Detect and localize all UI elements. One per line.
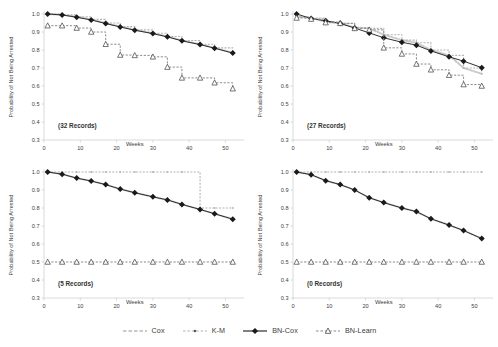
legend-key-cox-icon [122,322,148,340]
panel-top-right: 1.00.90.80.70.60.50.40.301020304050Weeks… [249,0,498,158]
svg-text:50: 50 [471,303,477,309]
svg-text:20: 20 [362,145,368,151]
svg-text:50: 50 [222,145,228,151]
svg-text:0.9: 0.9 [32,29,40,35]
svg-text:0.5: 0.5 [32,101,40,107]
legend-label-bnlearn: BN-Learn [345,326,377,335]
svg-text:10: 10 [326,145,332,151]
legend-key-bnlearn-icon [315,322,341,340]
panel-plot-top-right: 1.00.90.80.70.60.50.40.301020304050Weeks… [249,0,498,158]
svg-text:0.4: 0.4 [281,119,289,125]
svg-text:20: 20 [113,145,119,151]
svg-text:0.9: 0.9 [281,187,289,193]
legend-label-bncox: BN-Cox [272,326,298,335]
svg-text:50: 50 [222,303,228,309]
panel-plot-top-left: 1.00.90.80.70.60.50.40.301020304050Weeks… [0,0,249,158]
svg-text:10: 10 [326,303,332,309]
svg-text:40: 40 [435,145,441,151]
svg-text:1.0: 1.0 [281,169,289,175]
svg-text:40: 40 [435,303,441,309]
legend-item-bnlearn: BN-Learn [315,322,377,340]
svg-text:0.6: 0.6 [281,241,289,247]
svg-text:0.7: 0.7 [32,223,40,229]
svg-text:30: 30 [399,145,405,151]
svg-text:0.6: 0.6 [32,241,40,247]
svg-text:1.0: 1.0 [281,11,289,17]
svg-text:0.6: 0.6 [281,83,289,89]
svg-text:Probability of Not Being Arres: Probability of Not Being Arrested [257,195,263,276]
svg-text:30: 30 [399,303,405,309]
panel-plot-bottom-left: 1.00.90.80.70.60.50.40.301020304050Weeks… [0,158,249,316]
svg-text:0.8: 0.8 [281,205,289,211]
legend-label-cox: Cox [152,326,165,335]
legend-label-km: K-M [212,326,225,335]
svg-text:0.5: 0.5 [32,259,40,265]
svg-text:0.3: 0.3 [281,137,289,143]
svg-text:10: 10 [77,145,83,151]
svg-text:0.8: 0.8 [32,205,40,211]
survival-curves-figure: 1.00.90.80.70.60.50.40.301020304050Weeks… [0,0,498,347]
panel-bottom-left: 1.00.90.80.70.60.50.40.301020304050Weeks… [0,158,249,316]
svg-text:40: 40 [186,303,192,309]
legend-key-bncox-icon [242,322,268,340]
svg-text:20: 20 [113,303,119,309]
svg-text:Probability of Not Being Arres: Probability of Not Being Arrested [8,195,14,276]
svg-text:Probability of Not Being Arres: Probability of Not Being Arrested [8,37,14,118]
svg-text:0.6: 0.6 [32,83,40,89]
svg-text:Weeks: Weeks [126,299,144,305]
svg-text:0: 0 [291,145,294,151]
panel-bottom-right: 1.00.90.80.70.60.50.40.301020304050Weeks… [249,158,498,316]
svg-text:0.9: 0.9 [281,29,289,35]
svg-text:0.4: 0.4 [32,119,40,125]
svg-text:Weeks: Weeks [126,141,144,147]
svg-text:Weeks: Weeks [375,299,393,305]
svg-text:0.7: 0.7 [281,223,289,229]
panel-plot-bottom-right: 1.00.90.80.70.60.50.40.301020304050Weeks… [249,158,498,316]
svg-text:Weeks: Weeks [375,141,393,147]
svg-text:0.3: 0.3 [32,137,40,143]
svg-text:Probability of Not Being Arres: Probability of Not Being Arrested [257,37,263,118]
legend-item-km: K-M [182,322,225,340]
svg-text:10: 10 [77,303,83,309]
svg-text:0: 0 [291,303,294,309]
svg-text:0.5: 0.5 [281,259,289,265]
svg-text:1.0: 1.0 [32,11,40,17]
svg-text:0.5: 0.5 [281,101,289,107]
svg-text:0.8: 0.8 [32,47,40,53]
svg-text:0.3: 0.3 [32,295,40,301]
legend-item-cox: Cox [122,322,165,340]
svg-text:0.8: 0.8 [281,47,289,53]
svg-text:40: 40 [186,145,192,151]
svg-text:(5 Records): (5 Records) [58,280,93,288]
svg-text:0: 0 [42,145,45,151]
svg-text:(27 Records): (27 Records) [307,122,346,130]
svg-text:1.0: 1.0 [32,169,40,175]
svg-text:20: 20 [362,303,368,309]
svg-text:30: 30 [150,145,156,151]
svg-text:50: 50 [471,145,477,151]
svg-text:30: 30 [150,303,156,309]
svg-text:0.4: 0.4 [32,277,40,283]
svg-text:0.3: 0.3 [281,295,289,301]
legend-item-bncox: BN-Cox [242,322,298,340]
svg-text:0.7: 0.7 [32,65,40,71]
svg-text:(32 Records): (32 Records) [58,122,97,130]
legend: Cox K-M BN-Cox BN-Learn [0,314,498,347]
svg-text:(0 Records): (0 Records) [307,280,342,288]
svg-text:0.4: 0.4 [281,277,289,283]
panel-top-left: 1.00.90.80.70.60.50.40.301020304050Weeks… [0,0,249,158]
svg-text:0.9: 0.9 [32,187,40,193]
legend-key-km-icon [182,322,208,340]
svg-text:0: 0 [42,303,45,309]
svg-text:0.7: 0.7 [281,65,289,71]
